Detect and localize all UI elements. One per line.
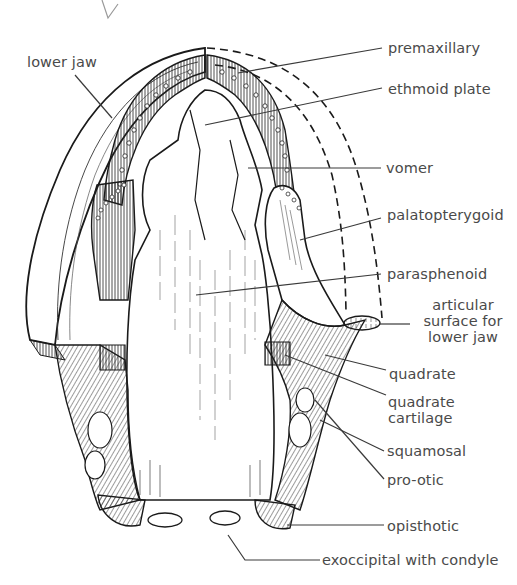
label-quadrate-cartilage-line2: cartilage (388, 410, 455, 426)
label-quadrate-cartilage: quadrate cartilage (388, 394, 455, 426)
label-premaxillary: premaxillary (388, 40, 480, 56)
pencil-mark (102, 0, 118, 18)
label-articular-line2: surface for (413, 313, 513, 329)
label-articular-line1: articular (413, 297, 513, 313)
maxilla-left (92, 180, 135, 300)
label-parasphenoid: parasphenoid (387, 266, 487, 282)
label-pro-otic: pro-otic (387, 472, 444, 488)
label-quadrate-cartilage-line1: quadrate (388, 394, 455, 410)
label-articular-surface: articular surface for lower jaw (413, 297, 513, 345)
skull-diagram: lower jaw premaxillary ethmoid plate vom… (0, 0, 517, 585)
label-lower-jaw: lower jaw (27, 54, 97, 70)
label-articular-line3: lower jaw (413, 329, 513, 345)
label-vomer: vomer (386, 160, 433, 176)
label-squamosal: squamosal (387, 443, 466, 459)
label-quadrate: quadrate (389, 366, 456, 382)
label-palatopterygoid: palatopterygoid (387, 207, 504, 223)
palatopterygoid-right (265, 186, 345, 327)
label-exoccipital-with-condyle: exoccipital with condyle (322, 552, 499, 568)
label-opisthotic: opisthotic (387, 518, 459, 534)
label-ethmoid-plate: ethmoid plate (388, 81, 491, 97)
